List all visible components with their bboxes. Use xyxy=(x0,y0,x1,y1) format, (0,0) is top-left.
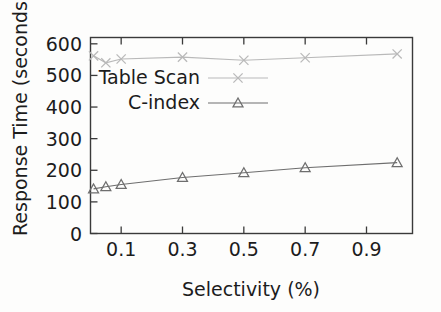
x-tick-label: 0.3 xyxy=(167,238,197,260)
chart-figure: Response Time (seconds) Selectivity (%) … xyxy=(0,0,441,312)
x-axis-title: Selectivity (%) xyxy=(182,278,320,300)
y-tick-label: 100 xyxy=(46,191,82,213)
y-tick-label: 200 xyxy=(46,159,82,181)
legend-entry-table-scan[interactable]: Table Scan xyxy=(98,66,268,88)
y-tick-label: 600 xyxy=(46,33,82,55)
y-tick-label: 0 xyxy=(70,223,82,245)
y-tick-labels: 0100200300400500600 xyxy=(46,33,82,245)
x-tick-label: 0.7 xyxy=(290,238,320,260)
chart-canvas: Response Time (seconds) Selectivity (%) … xyxy=(0,0,441,312)
series-table-scan xyxy=(89,49,402,67)
data-point-marker xyxy=(392,158,402,167)
series-line xyxy=(94,163,398,189)
x-tick-labels: 0.10.30.50.70.9 xyxy=(106,238,382,260)
y-axis-title: Response Time (seconds) xyxy=(9,0,31,236)
y-tick-label: 300 xyxy=(46,128,82,150)
x-tick-label: 0.1 xyxy=(106,238,136,260)
chart-legend: Table ScanC-index xyxy=(98,66,268,113)
legend-entry-c-index[interactable]: C-index xyxy=(128,91,268,113)
series-c-index xyxy=(89,158,403,193)
x-tick-label: 0.5 xyxy=(229,238,259,260)
legend-label: C-index xyxy=(128,91,200,113)
legend-label: Table Scan xyxy=(98,66,200,88)
y-tick-label: 400 xyxy=(46,96,82,118)
x-tick-label: 0.9 xyxy=(351,238,381,260)
y-tick-label: 500 xyxy=(46,64,82,86)
